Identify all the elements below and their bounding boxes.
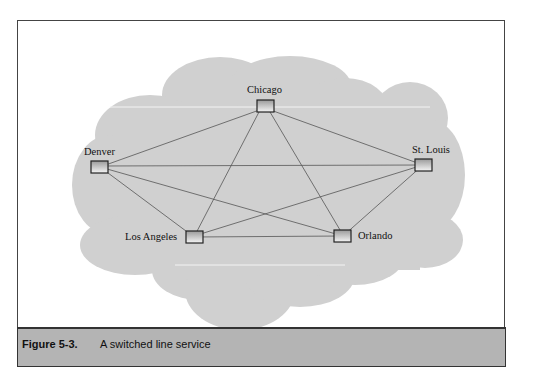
label-st-louis: St. Louis (412, 144, 450, 155)
figure-number: Figure 5-3. (22, 338, 78, 350)
label-chicago: Chicago (247, 84, 282, 95)
switch-los-angeles (186, 231, 203, 243)
network-diagram (0, 0, 534, 383)
figure-caption: A switched line service (100, 338, 211, 350)
switch-st-louis (415, 159, 432, 171)
switch-chicago (257, 100, 274, 112)
label-los-angeles: Los Angeles (125, 231, 177, 242)
figure-caption-bar: Figure 5-3. A switched line service (17, 327, 506, 367)
label-orlando: Orlando (358, 230, 392, 241)
label-denver: Denver (84, 146, 115, 157)
switch-denver (91, 161, 108, 173)
network-cloud (72, 56, 465, 330)
switch-orlando (334, 230, 351, 242)
